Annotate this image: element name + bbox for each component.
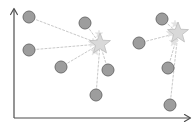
data-points-layer — [23, 11, 176, 111]
data-point-p7 — [156, 13, 168, 25]
data-point-p4 — [55, 61, 67, 73]
centroid-star-icon-c2 — [168, 22, 189, 42]
data-point-p8 — [133, 37, 145, 49]
data-point-p2 — [79, 17, 91, 29]
data-point-p10 — [164, 99, 176, 111]
data-point-p1 — [23, 11, 35, 23]
cluster-link-3 — [61, 44, 100, 67]
figure-canvas — [0, 0, 195, 129]
point-to-centroid-links — [29, 17, 178, 105]
cluster-link-2 — [29, 44, 100, 50]
data-point-p6 — [90, 89, 102, 101]
clustering-scatter-figure — [0, 0, 195, 129]
data-point-p9 — [162, 62, 174, 74]
data-point-p5 — [102, 64, 114, 76]
data-point-p3 — [23, 44, 35, 56]
